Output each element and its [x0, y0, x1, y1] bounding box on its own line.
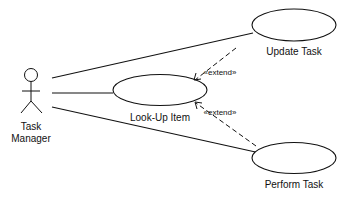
- use-case-diagram: Task Manager Update Task Look-Up Item Pe…: [0, 0, 354, 199]
- actor-task-manager: [21, 69, 42, 114]
- use-case-lookup-item: [113, 75, 207, 106]
- extend-label-2: «extend»: [204, 108, 237, 117]
- actor-label-line2: Manager: [11, 133, 51, 144]
- use-case-perform-task: [252, 143, 336, 174]
- use-case-lookup-item-label: Look-Up Item: [130, 112, 190, 123]
- use-case-update-task: [252, 9, 336, 41]
- arrowhead-icon: [194, 73, 201, 80]
- extend-label-1: «extend»: [204, 68, 237, 77]
- use-case-perform-task-label: Perform Task: [265, 179, 325, 190]
- actor-label-line1: Task: [21, 121, 43, 132]
- use-case-update-task-label: Update Task: [266, 46, 322, 57]
